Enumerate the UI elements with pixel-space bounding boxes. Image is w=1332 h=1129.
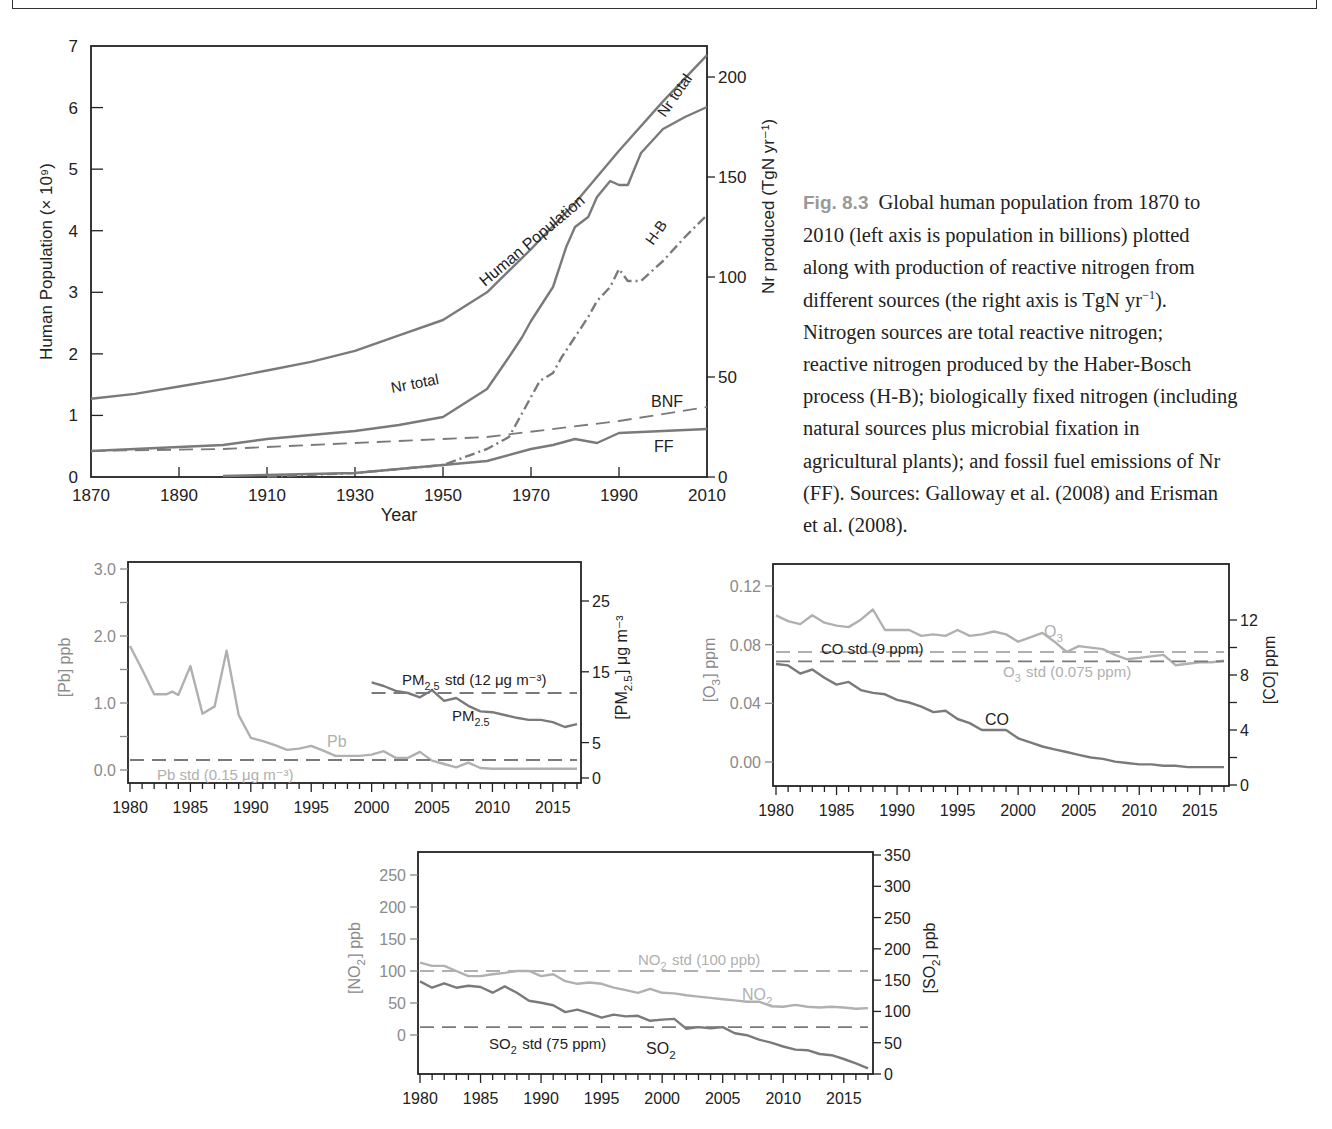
svg-text:5: 5 xyxy=(592,735,601,752)
svg-text:1985: 1985 xyxy=(819,802,855,819)
chart-no2_so2: 1980198519901995200020052010201505010015… xyxy=(346,847,942,1107)
svg-text:1980: 1980 xyxy=(758,802,794,819)
svg-text:2015: 2015 xyxy=(535,799,571,816)
svg-text:250: 250 xyxy=(884,910,911,927)
svg-text:350: 350 xyxy=(884,847,911,864)
caption-line-5: Nitrogen sources are total reactive nitr… xyxy=(803,321,1163,343)
svg-text:50: 50 xyxy=(388,995,406,1012)
caption-line-1: Global human population from 1870 to xyxy=(878,191,1200,213)
caption-line-4: different sources (the right axis is TgN… xyxy=(803,289,1142,311)
annotation: Nr total xyxy=(654,70,696,119)
svg-text:Human Population: Human Population xyxy=(476,192,588,290)
svg-text:Nr total: Nr total xyxy=(389,370,440,396)
svg-text:1985: 1985 xyxy=(463,1090,499,1107)
svg-text:1995: 1995 xyxy=(584,1090,620,1107)
caption-line-11: et al. (2008). xyxy=(803,514,908,536)
svg-text:2005: 2005 xyxy=(414,799,450,816)
svg-text:CO std (9 ppm): CO std (9 ppm) xyxy=(821,640,924,657)
svg-text:0: 0 xyxy=(1240,777,1249,794)
svg-text:50: 50 xyxy=(718,368,737,387)
figure-label: Fig. 8.3 xyxy=(803,192,868,213)
annotation: PM2.5 std (12 μg m⁻³) xyxy=(402,671,547,692)
caption-line-7: process (H-B); biologically fixed nitrog… xyxy=(803,385,1237,407)
svg-text:1970: 1970 xyxy=(512,486,550,505)
svg-text:2015: 2015 xyxy=(826,1090,862,1107)
y-axis-title-right: [PM2.5 ] μg m⁻³ xyxy=(613,615,634,720)
svg-text:SO2: SO2 xyxy=(646,1040,677,1061)
svg-text:200: 200 xyxy=(884,941,911,958)
svg-text:0.04: 0.04 xyxy=(730,695,761,712)
svg-text:25: 25 xyxy=(592,593,610,610)
annotation: CO std (9 ppm) xyxy=(821,640,924,657)
chart-o3_co: 198019851990199520002005201020150.000.04… xyxy=(701,564,1278,819)
svg-text:1990: 1990 xyxy=(233,799,269,816)
svg-text:1950: 1950 xyxy=(424,486,462,505)
series-so2 xyxy=(420,981,868,1068)
y-axis-title-right: [CO] ppm xyxy=(1261,636,1278,704)
svg-text:SO2 std (75 ppm): SO2 std (75 ppm) xyxy=(489,1035,606,1056)
figure-charts: 1870189019101930195019701990201001234567… xyxy=(0,0,1332,1129)
svg-text:1985: 1985 xyxy=(173,799,209,816)
svg-text:PM2.5: PM2.5 xyxy=(452,707,491,728)
annotation: NO2 xyxy=(742,986,774,1007)
svg-text:6: 6 xyxy=(69,99,78,118)
svg-text:1.0: 1.0 xyxy=(94,695,116,712)
svg-text:1995: 1995 xyxy=(293,799,329,816)
svg-text:2: 2 xyxy=(69,345,78,364)
annotation: BNF xyxy=(651,393,683,410)
y-axis-title-left: [O3 ] ppm xyxy=(701,638,722,703)
series-bnf xyxy=(91,407,707,451)
svg-text:0: 0 xyxy=(397,1027,406,1044)
svg-text:1870: 1870 xyxy=(72,486,110,505)
annotation: O3 std (0.075 ppm) xyxy=(1003,663,1131,684)
svg-text:2000: 2000 xyxy=(354,799,390,816)
chart-pb_pm25: 198019851990199520002005201020150.01.02.… xyxy=(56,561,634,816)
annotation: PM2.5 xyxy=(452,707,491,728)
svg-text:2000: 2000 xyxy=(1000,802,1036,819)
y-axis-title-left: [NO2 ] ppb xyxy=(346,922,367,994)
svg-text:CO: CO xyxy=(985,711,1009,728)
svg-text:0.08: 0.08 xyxy=(730,637,761,654)
svg-text:0: 0 xyxy=(884,1066,893,1083)
svg-text:150: 150 xyxy=(884,972,911,989)
caption-line-9: agricultural plants); and fossil fuel em… xyxy=(803,450,1220,472)
annotation: Nr total xyxy=(389,370,440,396)
svg-text:2.0: 2.0 xyxy=(94,628,116,645)
svg-text:2010: 2010 xyxy=(688,486,726,505)
svg-text:50: 50 xyxy=(884,1035,902,1052)
svg-text:1: 1 xyxy=(69,406,78,425)
svg-text:1990: 1990 xyxy=(879,802,915,819)
svg-text:0.12: 0.12 xyxy=(730,578,761,595)
figure-caption: Fig. 8.3Global human population from 187… xyxy=(803,186,1323,541)
svg-text:BNF: BNF xyxy=(651,393,683,410)
y-axis-title-left: Human Population (× 10⁹) xyxy=(37,163,56,360)
svg-text:Nr total: Nr total xyxy=(654,70,696,119)
y-axis-title-right: [SO2 ] ppb xyxy=(921,922,942,993)
svg-text:1930: 1930 xyxy=(336,486,374,505)
svg-text:NO2 std (100 ppb): NO2 std (100 ppb) xyxy=(638,951,760,972)
svg-text:3.0: 3.0 xyxy=(94,561,116,578)
x-axis-title: Year xyxy=(381,505,417,525)
series-pb xyxy=(130,646,577,769)
svg-text:15: 15 xyxy=(592,664,610,681)
svg-text:200: 200 xyxy=(379,899,406,916)
svg-text:0: 0 xyxy=(69,468,78,487)
svg-text:12: 12 xyxy=(1240,612,1258,629)
annotation: NO2 std (100 ppb) xyxy=(638,951,760,972)
plot-frame xyxy=(773,564,1229,786)
caption-line-10: (FF). Sources: Galloway et al. (2008) an… xyxy=(803,482,1218,504)
annotation: CO xyxy=(985,711,1009,728)
svg-text:FF: FF xyxy=(654,438,674,455)
annotation: SO2 xyxy=(646,1040,677,1061)
svg-text:NO2: NO2 xyxy=(742,986,774,1007)
svg-text:100: 100 xyxy=(884,1003,911,1020)
svg-text:2005: 2005 xyxy=(1061,802,1097,819)
svg-text:O3 std (0.075 ppm): O3 std (0.075 ppm) xyxy=(1003,663,1131,684)
series-no2 xyxy=(420,963,868,1009)
svg-text:7: 7 xyxy=(69,37,78,56)
svg-text:0: 0 xyxy=(718,468,727,487)
svg-text:PM2.5 std (12 μg m⁻³): PM2.5 std (12 μg m⁻³) xyxy=(402,671,547,692)
svg-text:5: 5 xyxy=(69,160,78,179)
annotation: H-B xyxy=(642,217,671,248)
caption-line-6: reactive nitrogen produced by the Haber-… xyxy=(803,353,1191,375)
